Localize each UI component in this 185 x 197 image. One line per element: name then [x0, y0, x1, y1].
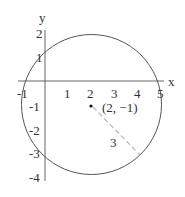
x-tick: 2	[87, 86, 94, 101]
x-axis-label: x	[168, 74, 175, 89]
y-tick: -4	[29, 170, 40, 185]
x-tick: -1	[17, 86, 28, 101]
center-point	[89, 104, 92, 107]
y-tick: 1	[36, 50, 43, 65]
x-tick: 5	[157, 86, 164, 101]
x-tick: 3	[111, 86, 118, 101]
x-tick: 4	[134, 86, 141, 101]
y-tick: -3	[29, 146, 40, 161]
radius-label: 3	[110, 135, 117, 150]
y-tick: 2	[36, 26, 43, 41]
coordinate-plot: y x -1 1 2 3 4 5 2 1 -1 -2 -3 -4 (2, −1)…	[0, 0, 185, 197]
y-tick: -2	[29, 123, 40, 138]
y-axis-label: y	[39, 10, 46, 25]
center-label: (2, −1)	[102, 100, 138, 115]
y-tick: -1	[29, 99, 40, 114]
x-tick: 1	[64, 86, 71, 101]
